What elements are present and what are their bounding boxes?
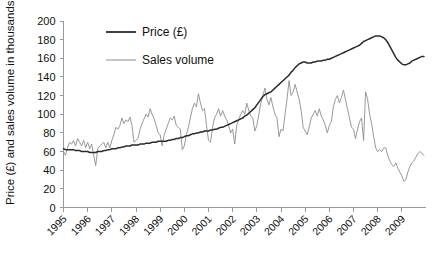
y-tick-label: 160 [37, 52, 55, 64]
y-tick-label: 180 [37, 34, 55, 46]
chart-container: Price (£) and sales volume in thousands … [0, 0, 439, 265]
line-chart: Price (£) and sales volume in thousands … [0, 0, 439, 265]
y-tick-label: 0 [49, 202, 55, 214]
y-tick-label: 140 [37, 71, 55, 83]
y-axis-title: Price (£) and sales volume in thousands [4, 0, 16, 205]
y-tick-label: 60 [43, 146, 55, 158]
legend-label-price: Price (£) [142, 25, 187, 39]
y-tick-label: 120 [37, 90, 55, 102]
y-tick-label: 80 [43, 127, 55, 139]
y-tick-label: 100 [37, 108, 55, 120]
y-tick-label: 20 [43, 183, 55, 195]
y-tick-label: 200 [37, 15, 55, 27]
legend-label-sales-volume: Sales volume [142, 53, 214, 67]
y-tick-label: 40 [43, 164, 55, 176]
